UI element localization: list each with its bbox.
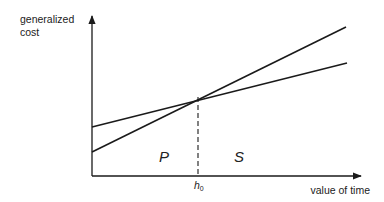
- x-axis-label: value of time: [310, 184, 370, 196]
- y-axis-label-line1: generalized: [20, 13, 74, 26]
- flat-cost-line: [92, 63, 347, 127]
- region-p-label: P: [159, 148, 169, 165]
- region-s-label: S: [234, 148, 244, 165]
- threshold-subscript: 0: [200, 185, 204, 192]
- y-axis-label-line2: cost: [20, 26, 74, 39]
- threshold-tick-label: h0: [194, 179, 204, 192]
- y-axis-label: generalized cost: [20, 13, 74, 39]
- steep-cost-line: [92, 27, 346, 152]
